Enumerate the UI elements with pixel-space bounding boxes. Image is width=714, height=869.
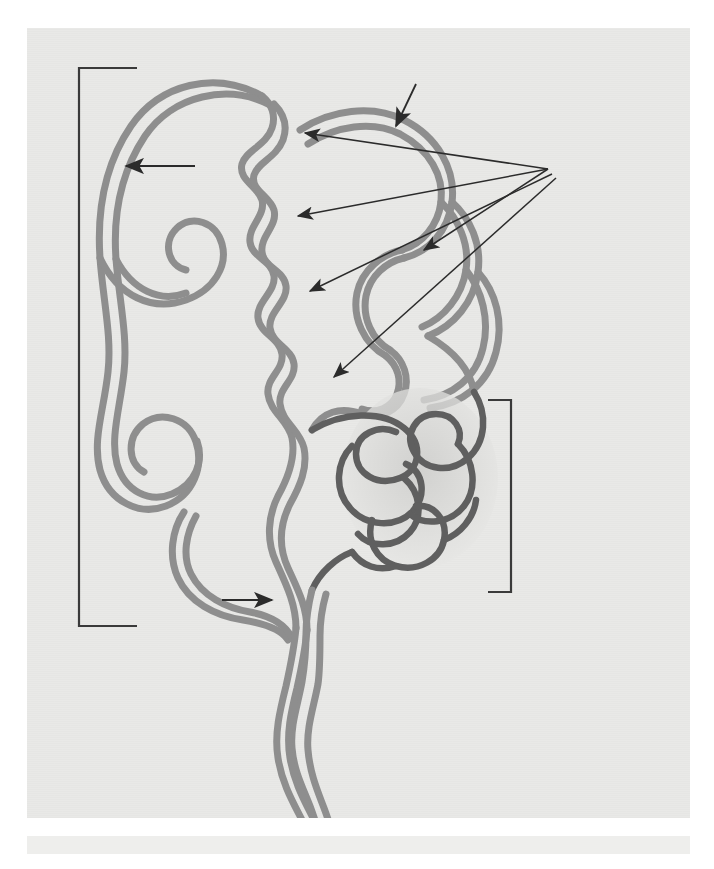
figure-root bbox=[0, 0, 714, 869]
alpha-subunit-label bbox=[112, 36, 133, 102]
ligand-binding-domain-label bbox=[326, 32, 504, 153]
amino-terminus-label-beta bbox=[443, 244, 465, 313]
cysteine-rich-domain-label bbox=[524, 408, 544, 610]
cation-binding-sites-label bbox=[518, 134, 698, 255]
amino-terminus-label-light-chain bbox=[163, 528, 185, 597]
cytoplasmic-domain-label bbox=[388, 742, 588, 869]
heavy-chain-label bbox=[152, 128, 248, 249]
amino-terminus-label-alpha-left bbox=[153, 366, 175, 435]
alpha-zigzag-ribbon bbox=[241, 96, 307, 630]
alpha-light-chain-ribbon bbox=[172, 512, 292, 640]
